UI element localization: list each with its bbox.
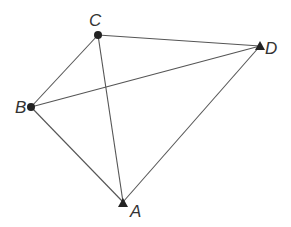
diagonal-ca <box>98 35 123 202</box>
diagonal-bd <box>31 46 260 107</box>
edge-da <box>123 46 260 202</box>
point-label-c: C <box>89 11 102 30</box>
edge-cd <box>98 35 260 46</box>
edge-ab <box>31 107 123 202</box>
point-label-a: A <box>129 202 141 221</box>
diagram-canvas: C B D A <box>0 0 291 227</box>
edge-bc <box>31 35 98 107</box>
point-label-d: D <box>265 39 277 58</box>
point-b-marker-icon <box>27 103 35 111</box>
point-c-marker-icon <box>94 31 102 39</box>
diagram-svg: C B D A <box>0 0 291 227</box>
point-a-marker-icon <box>118 198 128 207</box>
point-label-b: B <box>15 98 26 117</box>
